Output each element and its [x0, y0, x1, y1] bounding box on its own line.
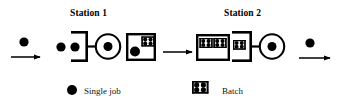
station-1-output-batch: [142, 37, 155, 47]
station-2-input-buffer: [196, 34, 230, 61]
single-job-dot: [19, 37, 28, 46]
station-1-machine: [96, 34, 120, 58]
station-2-input-batch-2: [214, 38, 227, 48]
station-2-machine: [260, 34, 284, 58]
station-2-group: [196, 31, 284, 62]
outbound-single-job-dot: [305, 38, 314, 47]
process-flow-diagram: Station 1 Station 2 Single job Batch: [0, 0, 339, 112]
inbound-flow-arrow: [11, 37, 40, 57]
station-2-input-batch-1: [200, 38, 213, 48]
legend-single-job-glyph: [67, 85, 77, 95]
station-1-input-jobs: [56, 42, 79, 51]
diagram-graphics-layer: [0, 0, 339, 112]
station-1-output-job: [130, 47, 140, 57]
station-1-output-queue: [126, 33, 156, 61]
outbound-flow-arrow: [299, 38, 330, 58]
legend-batch-glyph: [192, 81, 208, 93]
station-2-staging-batch: [233, 40, 246, 50]
station-2-staging-queue: [232, 31, 252, 62]
station-1-group: [56, 31, 156, 62]
